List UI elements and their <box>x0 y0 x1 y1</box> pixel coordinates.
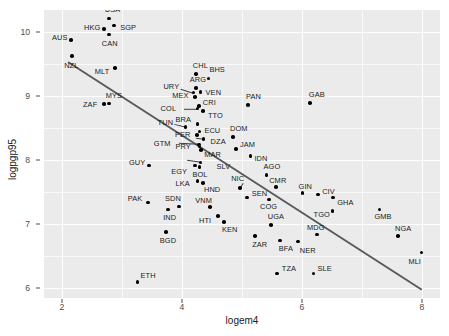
point-label: CHL <box>193 62 208 69</box>
data-point[interactable] <box>269 223 273 227</box>
data-point[interactable] <box>192 91 196 95</box>
data-point[interactable] <box>207 77 211 81</box>
gridline-major-y <box>44 288 440 289</box>
point-label: ARG <box>190 76 206 83</box>
data-point[interactable] <box>216 214 220 218</box>
point-label: MYS <box>106 92 122 99</box>
data-point[interactable] <box>113 66 117 70</box>
data-point[interactable] <box>166 208 170 212</box>
data-point[interactable] <box>316 193 320 197</box>
point-label: BOL <box>192 171 207 178</box>
data-point[interactable] <box>147 164 151 168</box>
point-label: PER <box>175 131 191 138</box>
data-point[interactable] <box>112 24 116 28</box>
data-point[interactable] <box>107 17 111 21</box>
point-label: CMR <box>269 177 286 184</box>
point-label: BRA <box>176 116 192 123</box>
x-tick-mark <box>182 299 183 303</box>
data-point[interactable] <box>234 147 238 151</box>
point-label: PRY <box>175 143 190 150</box>
point-label: DOM <box>230 125 248 132</box>
data-point[interactable] <box>164 230 168 234</box>
gridline-minor-x <box>242 10 243 298</box>
data-point[interactable] <box>198 165 202 169</box>
point-label: PAK <box>128 195 143 202</box>
data-point[interactable] <box>69 38 73 42</box>
point-label: VEN <box>206 89 222 96</box>
data-point[interactable] <box>177 205 181 209</box>
data-point[interactable] <box>265 173 269 177</box>
data-point[interactable] <box>245 196 249 200</box>
data-point[interactable] <box>102 27 106 31</box>
gridline-minor-x <box>362 10 363 298</box>
data-point[interactable] <box>275 272 279 276</box>
point-label: MLI <box>408 258 421 265</box>
data-point[interactable] <box>396 234 400 238</box>
data-point[interactable] <box>274 185 278 189</box>
point-label: VNM <box>195 197 212 204</box>
data-point[interactable] <box>199 148 203 152</box>
point-label: JAM <box>240 141 255 148</box>
data-point[interactable] <box>296 240 300 244</box>
data-point[interactable] <box>196 179 200 183</box>
x-tick-mark <box>62 299 63 303</box>
data-point[interactable] <box>199 161 203 165</box>
data-point[interactable] <box>194 86 198 90</box>
data-point[interactable] <box>331 196 335 200</box>
point-label: IND <box>163 214 176 221</box>
data-point[interactable] <box>196 122 200 126</box>
x-tick-label: 6 <box>300 302 305 312</box>
gridline-minor-y <box>44 64 440 65</box>
y-tick-mark <box>36 288 40 289</box>
gridline-major-y <box>44 96 440 97</box>
data-point[interactable] <box>136 280 140 284</box>
data-point[interactable] <box>193 95 197 99</box>
data-point[interactable] <box>253 234 257 238</box>
point-label: ZAF <box>83 101 97 108</box>
data-point[interactable] <box>238 186 242 190</box>
data-point[interactable] <box>246 103 250 107</box>
data-point[interactable] <box>278 239 282 243</box>
data-point[interactable] <box>308 101 312 105</box>
data-point[interactable] <box>199 90 203 94</box>
data-point[interactable] <box>222 220 226 224</box>
data-point[interactable] <box>312 272 316 276</box>
point-label: SLE <box>317 265 331 272</box>
data-point[interactable] <box>249 154 253 158</box>
point-label: GMB <box>374 213 391 220</box>
point-label: AUS <box>52 34 68 41</box>
data-point[interactable] <box>193 164 197 168</box>
point-label: GUY <box>129 159 145 166</box>
y-axis-title: logpgp95 <box>7 120 18 200</box>
data-point[interactable] <box>146 201 150 205</box>
data-point[interactable] <box>315 233 319 237</box>
plot-panel: AUSNZLHKGUSACANSGPMLTMYSZAFCHLBHSARGURYV… <box>44 10 440 298</box>
gridline-major-y <box>44 32 440 33</box>
point-label: PAN <box>246 93 261 100</box>
data-point[interactable] <box>107 102 111 106</box>
scatter-plot: AUSNZLHKGUSACANSGPMLTMYSZAFCHLBHSARGURYV… <box>0 0 449 336</box>
gridline-major-x <box>182 10 183 298</box>
point-label: BHS <box>209 66 225 73</box>
data-point[interactable] <box>208 205 212 209</box>
y-tick-label: 6 <box>0 283 30 293</box>
y-tick-label: 10 <box>0 27 30 37</box>
point-label: SGP <box>120 24 136 31</box>
data-point[interactable] <box>201 109 205 113</box>
data-point[interactable] <box>196 107 200 111</box>
y-tick-mark <box>36 32 40 33</box>
x-tick-mark <box>302 299 303 303</box>
data-point[interactable] <box>202 137 206 141</box>
point-label: SLV <box>217 163 231 170</box>
data-point[interactable] <box>195 133 199 137</box>
data-point[interactable] <box>301 191 305 195</box>
data-point[interactable] <box>107 33 111 37</box>
data-point[interactable] <box>267 198 271 202</box>
data-point[interactable] <box>378 208 382 212</box>
data-point[interactable] <box>231 135 235 139</box>
x-axis-title: logem4 <box>44 315 440 326</box>
data-point[interactable] <box>331 209 335 213</box>
data-point[interactable] <box>102 102 106 106</box>
x-tick-label: 8 <box>420 302 425 312</box>
data-point[interactable] <box>70 54 74 58</box>
